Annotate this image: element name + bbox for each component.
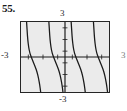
exercise-number-label: 55.	[2, 2, 15, 14]
axis-label-y-max: 3	[60, 9, 65, 18]
axis-label-y-min: -3	[59, 95, 67, 104]
plot-frame	[20, 21, 110, 93]
axis-label-x-max: 3	[121, 51, 126, 60]
axes-group	[21, 22, 109, 92]
plot-canvas	[21, 22, 109, 92]
axis-label-x-min: -3	[1, 51, 9, 60]
exercise-figure: 55. 3	[0, 0, 127, 111]
